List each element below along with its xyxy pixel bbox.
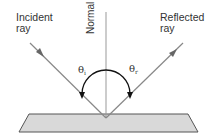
reflected-ray-label: Reflected ray — [160, 12, 204, 34]
reflected-label-line2: ray — [160, 23, 204, 34]
reflecting-surface — [19, 114, 198, 132]
arc-arrowhead-right-icon — [127, 92, 133, 99]
theta-r-subscript: r — [135, 68, 138, 75]
normal-label: Normal — [85, 2, 96, 34]
angle-of-incidence-label: θi — [78, 64, 86, 76]
arc-arrowhead-left-icon — [79, 92, 85, 99]
angle-of-reflection-label: θr — [129, 63, 138, 75]
incident-label-line2: ray — [16, 23, 53, 34]
incident-ray-label: Incident ray — [16, 12, 53, 34]
theta-i-subscript: i — [84, 69, 86, 76]
